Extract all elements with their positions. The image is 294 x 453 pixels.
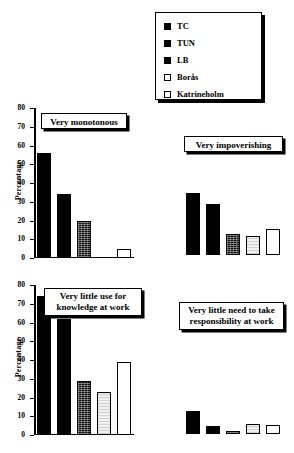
y-axis-tick-label: 40 (18, 179, 26, 187)
y-axis-tick-label: 20 (18, 217, 26, 225)
y-axis-tick: 10 (30, 239, 34, 240)
chart-legend: TC TUN LB Borås Katrineholm (155, 12, 262, 100)
y-axis-tick-label: 80 (18, 281, 26, 289)
legend-label-tun: TUN (177, 39, 195, 48)
y-axis-tick: 60 (30, 323, 34, 324)
bar-tc (37, 153, 51, 258)
y-axis-tick-label: 50 (18, 161, 26, 169)
y-axis-tick-label: 30 (18, 375, 26, 383)
bar-katrineholm (117, 362, 131, 435)
bar-bors (246, 236, 260, 255)
y-axis-tick-label: 10 (18, 236, 26, 244)
y-axis-tick: 80 (30, 108, 34, 109)
chart-title-very-monotonous: Very monotonous (41, 113, 127, 129)
y-axis-tick: 50 (30, 341, 34, 342)
bar-tun (206, 204, 220, 255)
legend-swatch-boras (164, 74, 171, 81)
chart-title-very-impoverishing: Very impoverishing (184, 136, 283, 152)
bar-lb (77, 221, 91, 259)
y-axis-tick-label: 50 (18, 338, 26, 346)
legend-swatch-tc (164, 23, 171, 30)
bar-lb (226, 234, 240, 255)
chart-title-little-responsibility: Very little need to take responsibility … (179, 302, 284, 330)
y-axis-tick-label: 0 (21, 431, 25, 439)
legend-label-boras: Borås (177, 73, 198, 82)
bar-tun (57, 194, 71, 258)
y-axis-tick-label: 80 (18, 104, 26, 112)
chart-panel-very-monotonous: Percentage 01020304050607080 (34, 108, 134, 258)
bar-katrineholm (266, 425, 280, 434)
y-axis-tick: 20 (30, 221, 34, 222)
legend-swatch-tun (164, 40, 171, 47)
bar-lb (77, 381, 91, 435)
legend-item: LB (164, 52, 261, 68)
y-axis-tick: 30 (30, 379, 34, 380)
bar-tun (57, 319, 71, 435)
legend-item: Katrineholm (164, 86, 261, 102)
plot-area-2 (183, 160, 283, 255)
bar-lb (226, 431, 240, 434)
legend-item: TC (164, 18, 261, 34)
y-axis-tick: 0 (30, 435, 34, 436)
bar-tun (206, 426, 220, 434)
y-axis-tick-label: 10 (18, 413, 26, 421)
y-axis-tick: 70 (30, 304, 34, 305)
chart-panel-little-responsibility (183, 372, 283, 434)
y-axis-tick: 70 (30, 127, 34, 128)
chart-title-little-use-knowledge: Very little use for knowledge at work (44, 288, 142, 316)
legend-label-lb: LB (177, 56, 188, 65)
bar-katrineholm (117, 249, 131, 258)
y-axis-tick: 0 (30, 258, 34, 259)
bar-tc (37, 296, 51, 435)
bar-tc (186, 411, 200, 434)
y-axis-tick-label: 0 (21, 254, 25, 262)
y-axis-tick-label: 60 (18, 319, 26, 327)
legend-swatch-lb (164, 57, 171, 64)
y-axis-tick: 60 (30, 146, 34, 147)
plot-area-4 (183, 372, 283, 434)
y-axis-tick-label: 70 (18, 123, 26, 131)
bar-tc (186, 193, 200, 255)
bar-katrineholm (266, 229, 280, 255)
legend-label-tc: TC (177, 22, 189, 31)
y-axis-tick: 40 (30, 360, 34, 361)
y-axis-tick: 10 (30, 416, 34, 417)
y-axis-tick: 50 (30, 164, 34, 165)
y-axis-tick: 20 (30, 398, 34, 399)
legend-item: TUN (164, 35, 261, 51)
bar-bors (246, 424, 260, 434)
plot-area-1 (34, 108, 134, 258)
y-axis-tick-label: 30 (18, 198, 26, 206)
y-axis-tick-label: 20 (18, 394, 26, 402)
y-axis-tick: 30 (30, 202, 34, 203)
legend-swatch-katrineholm (164, 91, 171, 98)
bar-bors (97, 392, 111, 435)
y-axis-tick: 80 (30, 285, 34, 286)
y-axis-tick-label: 60 (18, 142, 26, 150)
y-axis-tick-label: 40 (18, 356, 26, 364)
y-axis-tick: 40 (30, 183, 34, 184)
y-axis-tick-label: 70 (18, 300, 26, 308)
chart-panel-very-impoverishing (183, 160, 283, 255)
legend-item: Borås (164, 69, 261, 85)
legend-label-katrineholm: Katrineholm (177, 90, 224, 99)
